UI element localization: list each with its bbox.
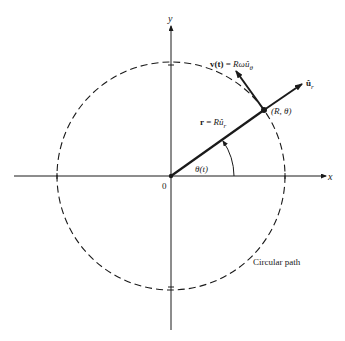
particle-point: [261, 107, 267, 113]
velocity-vector: [236, 71, 264, 110]
point-label: (R, θ): [271, 106, 291, 116]
velocity-lhs: v(t): [210, 59, 224, 69]
angle-arc: [223, 141, 234, 176]
y-axis-label: y: [167, 13, 173, 24]
origin-point: [169, 174, 173, 178]
unit-vector-label: ûr: [306, 78, 314, 91]
velocity-sub: θ: [249, 64, 253, 72]
unit-vector-sub: r: [311, 83, 314, 91]
velocity-eq: =: [224, 59, 234, 69]
position-sub: r: [224, 122, 227, 130]
origin-label: 0: [162, 181, 167, 191]
position-eq: =: [204, 117, 214, 127]
velocity-rhs: Rωû: [232, 59, 250, 69]
velocity-vector-label: v(t) = Rωûθ: [210, 59, 253, 72]
circular-motion-diagram: y x 0 r = Rûr v(t) = Rωûθ ûr (R, θ) θ(t)…: [0, 0, 345, 341]
circular-path-label: Circular path: [253, 257, 301, 267]
x-axis-label: x: [327, 171, 333, 182]
position-vector-label: r = Rûr: [200, 117, 227, 130]
position-rhs: Rû: [213, 117, 224, 127]
angle-label: θ(t): [195, 164, 208, 174]
